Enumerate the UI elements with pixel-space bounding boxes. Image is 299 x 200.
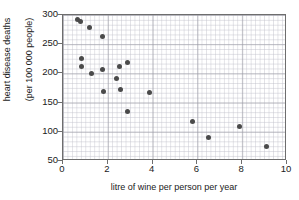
x-axis-tick-mark bbox=[241, 160, 242, 164]
data-point bbox=[117, 64, 122, 69]
y-axis-tick-label: 250 bbox=[32, 37, 58, 48]
data-point bbox=[78, 19, 83, 24]
data-point bbox=[89, 71, 94, 76]
data-point bbox=[264, 144, 269, 149]
x-axis-tick-label: 10 bbox=[275, 163, 297, 174]
y-axis-title-line1: heart disease deaths bbox=[2, 0, 13, 130]
x-axis-tick-mark bbox=[62, 160, 63, 164]
data-point bbox=[114, 76, 119, 81]
x-axis-title: litre of wine per person per year bbox=[62, 182, 286, 192]
x-axis-tick-label: 8 bbox=[230, 163, 252, 174]
y-axis-tick-label: 100 bbox=[32, 125, 58, 136]
y-axis-tick-label: 200 bbox=[32, 66, 58, 77]
x-axis-tick-label: 4 bbox=[141, 163, 163, 174]
x-axis-tick-labels: 0246810 bbox=[0, 163, 299, 177]
data-point bbox=[125, 109, 130, 114]
data-point bbox=[100, 67, 105, 72]
data-point bbox=[190, 119, 195, 124]
x-axis-tick-mark bbox=[152, 160, 153, 164]
data-point bbox=[101, 89, 106, 94]
data-point bbox=[147, 90, 152, 95]
x-axis-tick-label: 0 bbox=[51, 163, 73, 174]
x-axis-tick-mark bbox=[286, 160, 287, 164]
data-point bbox=[118, 87, 123, 92]
data-point bbox=[125, 60, 130, 65]
data-point bbox=[87, 25, 92, 30]
data-point bbox=[79, 64, 84, 69]
y-axis-tick-label: 300 bbox=[32, 8, 58, 19]
scatter-chart-figure: heart disease deaths (per 100 000 people… bbox=[0, 0, 299, 200]
data-point bbox=[100, 34, 105, 39]
x-axis-tick-mark bbox=[196, 160, 197, 164]
x-axis-tick-label: 2 bbox=[96, 163, 118, 174]
data-point bbox=[206, 135, 211, 140]
x-axis-tick-label: 6 bbox=[185, 163, 207, 174]
y-axis-tick-label: 150 bbox=[32, 96, 58, 107]
plot-area bbox=[62, 14, 286, 160]
data-point bbox=[237, 124, 242, 129]
data-point bbox=[79, 56, 84, 61]
x-axis-tick-mark bbox=[107, 160, 108, 164]
